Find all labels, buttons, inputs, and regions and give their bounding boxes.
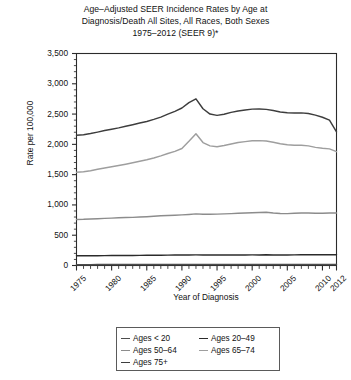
y-tick-label: 500 [6, 230, 68, 240]
y-tick-label: 0 [6, 260, 68, 270]
y-tick-label: 2,500 [6, 109, 68, 119]
plot-frame [77, 54, 337, 266]
y-tick-label: 1,500 [6, 169, 68, 179]
legend-item-label: Ages < 20 [133, 334, 170, 343]
chart-figure: Age–Adjusted SEER Incidence Rates by Age… [0, 0, 351, 380]
series-line-2 [77, 212, 337, 219]
y-tick-label: 3,500 [6, 48, 68, 58]
legend-items: Ages < 20Ages 20–49Ages 50–64Ages 65–74A… [121, 332, 277, 369]
legend-line-icon [121, 338, 130, 339]
y-tick-label: 1,000 [6, 199, 68, 209]
legend-item-label: Ages 20–49 [211, 334, 255, 343]
y-tick-label: 3,000 [6, 78, 68, 88]
series-line-3 [77, 134, 337, 172]
legend-item-label: Ages 65–74 [211, 346, 255, 355]
series-line-1 [77, 255, 337, 256]
legend-item-0[interactable]: Ages < 20 [121, 334, 199, 343]
series-line-4 [77, 99, 337, 135]
legend-item-1[interactable]: Ages 20–49 [199, 334, 277, 343]
legend-item-2[interactable]: Ages 50–64 [121, 346, 199, 355]
legend-line-icon [199, 338, 208, 339]
legend-line-icon [199, 350, 208, 351]
legend-line-icon [121, 350, 130, 351]
chart-legend: Ages < 20Ages 20–49Ages 50–64Ages 65–74A… [116, 327, 280, 371]
legend-item-3[interactable]: Ages 65–74 [199, 346, 277, 355]
y-tick-label: 2,000 [6, 139, 68, 149]
legend-line-icon [121, 362, 130, 363]
legend-item-label: Ages 75+ [133, 358, 168, 367]
legend-item-4[interactable]: Ages 75+ [121, 358, 199, 367]
legend-item-label: Ages 50–64 [133, 346, 177, 355]
